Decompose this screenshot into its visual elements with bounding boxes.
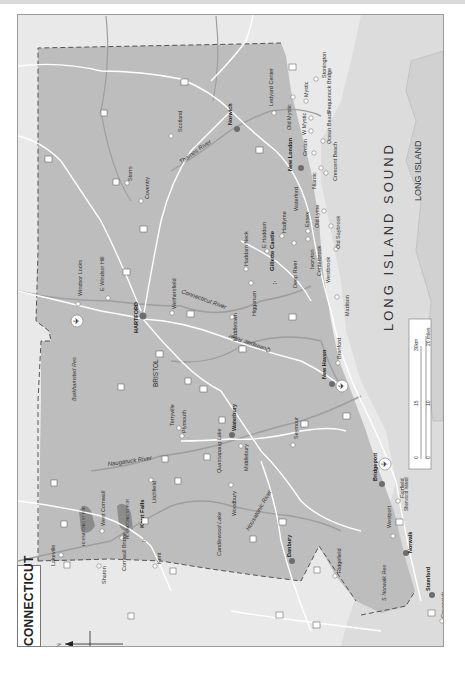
- label-sherwood-island: Sherwood Island: [404, 477, 409, 511]
- label-quassapaug-lake: Quassapaug Lake: [216, 428, 222, 473]
- label-kent: Kent: [156, 552, 162, 564]
- label-norwalk: Norwalk: [407, 531, 413, 553]
- label-branford: Branford: [336, 338, 342, 359]
- label-ocean-beach: Ocean Beach: [326, 111, 332, 144]
- label-haddam-neck: Haddam Neck: [243, 231, 249, 266]
- label-ledyard-center: Ledyard Center: [268, 68, 274, 106]
- label-lakeville: Lakeville: [50, 545, 56, 566]
- label-waterbury: Waterbury: [231, 403, 237, 431]
- attraction-icon-kent-falls: ∴: [142, 537, 146, 543]
- label-housatonic-st-for-west: HOUSATONIC ST FOR: [82, 506, 86, 546]
- svg-text:✈: ✈: [338, 382, 345, 391]
- label-seymour: Seymour: [293, 417, 299, 439]
- label-w-mystic: W Mystic: [301, 112, 307, 135]
- airport-icon: ✈: [71, 315, 83, 327]
- label-waterford: Waterford: [293, 187, 299, 211]
- label-e-haddam: E Haddam: [261, 222, 267, 248]
- scale-km-15: 15: [413, 400, 419, 406]
- label-long-island: LONG ISLAND: [413, 140, 423, 201]
- label-sharon: Sharon: [101, 566, 107, 584]
- label-bristol: BRISTOL: [152, 359, 159, 387]
- label-candlewood-lake: Candlewood Lake: [216, 512, 222, 556]
- label-terryville: Terryville: [169, 404, 175, 426]
- label-housatonic-st-for-east: HOUSATONIC ST FOR: [126, 499, 130, 539]
- label-new-haven: New Haven: [321, 349, 327, 379]
- label-e-windsor-hill: E Windsor Hill: [99, 256, 105, 291]
- label-centerbrook: Centerbrook: [316, 245, 322, 276]
- label-litchfield: Litchfield: [151, 481, 157, 503]
- label-old-lyme: Old Lyme: [314, 205, 320, 228]
- label-ridgefield: Ridgefield: [336, 549, 342, 573]
- scale-mi-10: 10: [425, 400, 431, 406]
- label-greenwich: Greenwich: [440, 592, 443, 618]
- label-middletown: Middletown: [232, 313, 238, 341]
- label-west-cornwall: West Cornwall: [100, 491, 106, 526]
- label-niantic: Niantic: [311, 172, 317, 189]
- label-scotland: Scotland: [177, 111, 183, 132]
- map-title-box: CONNECTICUT: [17, 565, 41, 647]
- label-storrs: Storrs: [127, 166, 133, 181]
- label-stamford: Stamford: [425, 567, 431, 591]
- connecticut-map: 0 15 30km 0 10 20 miles LONG ISLAND SOUN…: [18, 15, 443, 646]
- scale-km-0: 0: [413, 456, 419, 459]
- label-danbury: Danbury: [286, 534, 292, 557]
- label-wethersfield: Wethersfield: [171, 279, 177, 309]
- label-norwich: Norwich: [227, 103, 233, 125]
- label-groton: Groton: [302, 139, 308, 156]
- label-hartford: HARTFORD: [133, 302, 139, 333]
- label-mystic: Mystic: [303, 81, 309, 97]
- page-top-strip: [0, 0, 465, 4]
- scale-km-30: 30km: [413, 339, 419, 351]
- label-hadlyme: Hadlyme: [281, 211, 287, 233]
- label-gillette-castle: Gillette Castle: [269, 230, 275, 271]
- label-madison: Madison: [344, 295, 350, 316]
- map-title: CONNECTICUT: [19, 566, 39, 646]
- label-coventry: Coventry: [144, 177, 150, 199]
- label-new-london: New London: [287, 137, 293, 171]
- label-ivoryton: Ivoryton: [309, 249, 315, 269]
- label-middlebury: Middlebury: [243, 444, 249, 471]
- label-essex: Essex: [304, 212, 310, 227]
- label-westbrook: Westbrook: [325, 257, 331, 283]
- label-old-saybrook: Old Saybrook: [335, 215, 341, 249]
- label-higganum: Higganum: [251, 291, 257, 316]
- attraction-icon-gillette: ∴: [273, 279, 277, 285]
- north-label: N: [56, 643, 62, 646]
- label-barkhamsted-res: Barkhamsted Res: [71, 357, 77, 401]
- label-long-island-sound: LONG ISLAND SOUND: [381, 142, 396, 331]
- label-deep-river: Deep River: [292, 260, 298, 288]
- label-plymouth: Plymouth: [181, 410, 187, 433]
- label-pequonock-bridge: Pequonock Bridge: [326, 68, 332, 113]
- label-old-mystic: Old Mystic: [286, 104, 292, 130]
- label-bridgeport: Bridgeport: [372, 453, 378, 481]
- airport-icon: ✈: [379, 458, 391, 470]
- label-windsor-locks: Windsor Locks: [77, 260, 83, 296]
- map-frame[interactable]: 0 15 30km 0 10 20 miles LONG ISLAND SOUN…: [17, 14, 444, 647]
- label-woodbury: Woodbury: [231, 491, 237, 516]
- scale-mi-0: 0: [425, 456, 431, 459]
- label-crescent-beach: Crescent Beach: [332, 142, 338, 181]
- label-westport: Westport: [386, 506, 392, 528]
- svg-text:✈: ✈: [381, 460, 388, 469]
- scale-mi-20: 20 miles: [425, 327, 431, 346]
- airport-icon: ✈: [336, 380, 348, 392]
- svg-text:✈: ✈: [73, 317, 80, 326]
- label-s-norwalk-res: S Norwalk Res: [381, 564, 387, 601]
